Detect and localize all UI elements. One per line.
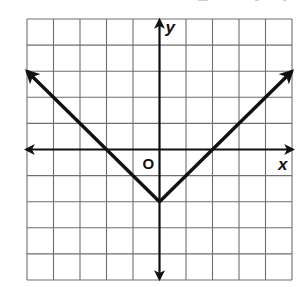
axes: [26, 20, 293, 279]
origin-label: O: [143, 155, 155, 172]
graph-right-ray: [160, 71, 293, 202]
x-axis-label: x: [277, 155, 289, 174]
coordinate-plane: x y O: [0, 0, 306, 287]
graph-left-ray: [27, 71, 160, 202]
y-axis-label: y: [165, 18, 177, 37]
